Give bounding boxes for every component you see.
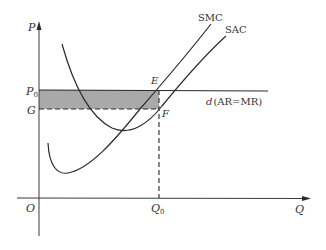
g-label: G: [27, 104, 36, 117]
point-f-label: F: [161, 108, 170, 119]
sac-label: SAC: [225, 24, 247, 35]
y-axis-arrow-icon: [37, 21, 42, 30]
x-axis: [17, 198, 306, 199]
cost-revenue-diagram: P Q O P0 G Q0 E F SMC SAC d(AR=MR): [0, 0, 326, 250]
smc-label: SMC: [198, 12, 223, 23]
sac-curve: [62, 36, 226, 131]
origin-label: O: [26, 202, 35, 215]
point-e-label: E: [150, 75, 159, 86]
y-axis-label: P: [27, 21, 36, 34]
x-axis-arrow-icon: [302, 196, 311, 201]
q0-label: Q0: [151, 202, 165, 216]
demand-label: d(AR=MR): [206, 96, 262, 107]
profit-area: [39, 90, 159, 109]
p0-subscript: 0: [33, 91, 37, 99]
p0-label: P0: [25, 85, 38, 99]
x-axis-label: Q: [295, 203, 304, 216]
q0-subscript: 0: [160, 208, 164, 216]
